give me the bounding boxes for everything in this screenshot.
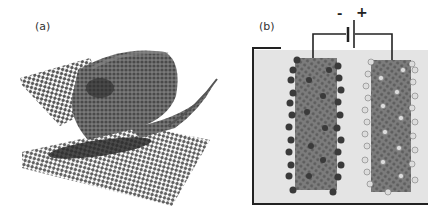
supercapacitor-illustration (225, 0, 437, 217)
panel-b-supercapacitor: (b) - + (225, 0, 437, 217)
graphene-nanotube-illustration (0, 0, 225, 217)
bottom-graphene-sheet (22, 126, 210, 206)
panel-a-graphene-rolling: (a) (0, 0, 225, 217)
